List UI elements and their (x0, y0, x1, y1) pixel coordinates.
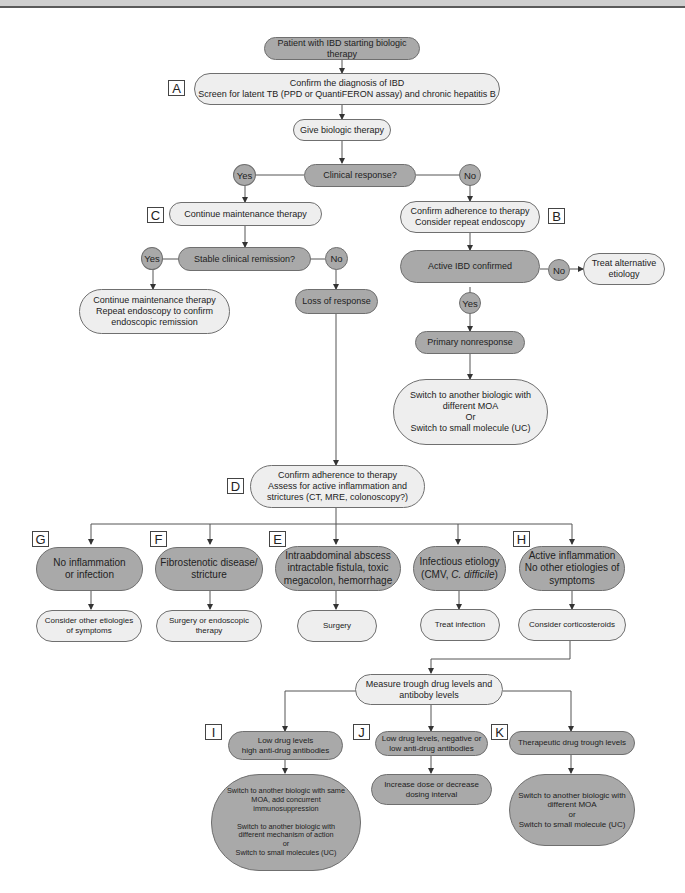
yes-circle-remission: Yes (141, 247, 163, 270)
switch-same-moa-node: Switch to another biologic with same MOA… (211, 774, 361, 871)
no-inflammation-node: No inflammation or infection (36, 547, 143, 591)
start-node: Patient with IBD starting biologic thera… (264, 37, 420, 60)
low-high-antibodies-node: Low drug levels high anti-drug antibodie… (228, 731, 343, 760)
confirm-diagnosis-node: Confirm the diagnosis of IBD Screen for … (194, 73, 500, 105)
tag-a: A (168, 80, 185, 96)
stable-remission-node: Stable clinical remission? (178, 247, 311, 271)
switch-primary-node: Switch to another biologic with differen… (393, 379, 548, 445)
tag-j: J (353, 724, 370, 740)
surgery-node: Surgery (297, 610, 377, 642)
low-negative-antibodies-node: Low drug levels, negative or low anti-dr… (375, 731, 488, 756)
tag-b: B (548, 208, 565, 224)
increase-dose-node: Increase dose or decrease dosing interva… (371, 774, 492, 805)
consider-corticosteroids-node: Consider corticosteroids (518, 609, 626, 641)
tag-k: K (491, 724, 508, 740)
tag-g: G (32, 531, 49, 547)
no-circle-remission: No (325, 247, 348, 270)
infectious-etiology-node: Infectious etiology (CMV, C. difficile) (413, 546, 506, 591)
confirm-adherence-d-node: Confirm adherence to therapy Assess for … (250, 465, 425, 508)
therapeutic-trough-node: Therapeutic drug trough levels (509, 731, 635, 755)
yes-circle-ibd: Yes (459, 292, 481, 314)
surgery-endoscopic-node: Surgery or endoscopic therapy (156, 610, 262, 642)
confirm-adherence-b-node: Confirm adherence to therapy Consider re… (400, 201, 540, 233)
treat-alternative-node: Treat alternative etiology (583, 253, 665, 285)
tag-e: E (269, 531, 286, 547)
no-circle-ibd: No (548, 259, 570, 281)
give-biologic-node: Give biologic therapy (293, 119, 391, 141)
measure-trough-node: Measure trough drug levels and antiboby … (355, 674, 503, 705)
tag-h: H (513, 531, 530, 547)
switch-k-node: Switch to another biologic with differen… (509, 774, 635, 846)
infectious-line1: Infectious etiology (419, 556, 499, 568)
continue-maintenance-node: Continue maintenance therapy (169, 202, 322, 226)
active-ibd-confirmed-node: Active IBD confirmed (400, 250, 540, 283)
yes-circle: Yes (233, 164, 256, 186)
fibrostenotic-node: Fibrostenotic disease/ stricture (155, 547, 263, 591)
tag-c: C (147, 207, 164, 223)
tag-i: I (205, 724, 222, 740)
continue-repeat-endoscopy-node: Continue maintenance therapy Repeat endo… (79, 289, 230, 334)
clinical-response-node: Clinical response? (304, 164, 416, 187)
intraabdominal-node: Intraabdominal abscess intractable fistu… (275, 546, 401, 591)
no-circle: No (459, 164, 481, 186)
loss-of-response-node: Loss of response (295, 289, 378, 314)
consider-other-node: Consider other etiologies of symptoms (36, 610, 142, 642)
infectious-line2: (CMV, C. difficile) (421, 569, 498, 581)
treat-infection-node: Treat infection (420, 609, 500, 641)
active-inflammation-node: Active inflammation No other etiologies … (519, 546, 625, 591)
primary-nonresponse-node: Primary nonresponse (415, 331, 525, 354)
tag-f: F (150, 531, 167, 547)
tag-d: D (227, 478, 244, 494)
